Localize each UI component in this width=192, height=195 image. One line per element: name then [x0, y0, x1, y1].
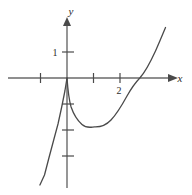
y-tick-label-1: 1	[53, 47, 58, 58]
coordinate-plot-svg: x y 1 2	[0, 0, 192, 195]
x-axis-arrow-icon	[168, 74, 178, 82]
x-axis-label: x	[177, 72, 183, 84]
x-tick-label-2: 2	[117, 85, 122, 96]
y-axis-arrow-icon	[63, 17, 71, 26]
curve-left-branch	[40, 78, 67, 185]
graph-figure: x y 1 2	[0, 0, 192, 195]
y-axis-label: y	[68, 5, 74, 17]
